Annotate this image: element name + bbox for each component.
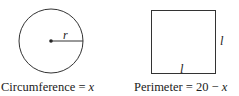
square-caption: Perimeter = 20 − x bbox=[134, 80, 227, 95]
radius-label: r bbox=[63, 28, 68, 43]
square-side-label-right: l bbox=[220, 34, 223, 49]
square-shape bbox=[152, 11, 216, 74]
circle-caption-var: x bbox=[89, 80, 95, 94]
circle-caption-text: Circumference = bbox=[1, 80, 89, 94]
square-side-label-bottom: l bbox=[180, 62, 183, 77]
circle-caption: Circumference = x bbox=[1, 80, 94, 95]
square-caption-text: Perimeter = 20 − bbox=[134, 80, 222, 94]
square-caption-var: x bbox=[222, 80, 228, 94]
